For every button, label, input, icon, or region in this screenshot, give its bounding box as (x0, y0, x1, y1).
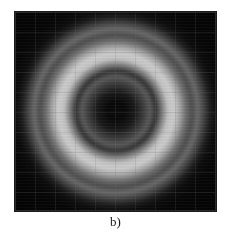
intensity-pattern-panel (15, 12, 216, 211)
concentric-rings (16, 12, 216, 211)
figure-container: b) (0, 0, 231, 243)
figure-caption: b) (0, 214, 231, 230)
